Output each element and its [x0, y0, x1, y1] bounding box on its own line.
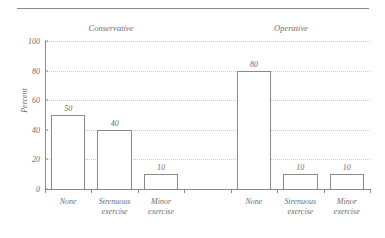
x-axis-tick-mark: [184, 189, 185, 193]
bar: [51, 115, 85, 190]
x-axis-tick-mark: [138, 189, 139, 193]
bar-value-label: 50: [45, 104, 91, 113]
x-axis-tick-mark: [45, 189, 46, 193]
x-axis-category-label: Minor exercise: [318, 197, 377, 217]
y-axis-tick-label: 60: [32, 96, 40, 105]
y-axis-tick-label: 0: [36, 185, 40, 194]
x-axis-tick-mark: [324, 189, 325, 193]
bar-value-label: 10: [138, 163, 184, 172]
y-axis-title: Percent: [20, 71, 29, 131]
x-axis-tick-mark: [231, 189, 232, 193]
y-axis-tick-label: 100: [28, 37, 40, 46]
top-divider-rule: [17, 8, 369, 9]
x-axis-category-label: Minor exercise: [132, 197, 191, 217]
gridline: [45, 71, 370, 72]
x-axis-tick-mark: [370, 189, 371, 193]
bar-value-label: 40: [91, 119, 137, 128]
bar-value-label: 10: [324, 163, 370, 172]
bar-value-label: 80: [231, 60, 277, 69]
bar: [97, 130, 131, 190]
x-axis-tick-mark: [91, 189, 92, 193]
bar: [330, 174, 364, 190]
bar: [237, 71, 271, 190]
bar-value-label: 10: [277, 163, 323, 172]
gridline: [45, 130, 370, 131]
gridline: [45, 41, 370, 42]
y-axis-line: [45, 41, 46, 190]
group-header-conservative: Conservative: [56, 23, 166, 33]
x-axis-line: [45, 189, 371, 190]
bar: [283, 174, 317, 190]
bar: [144, 174, 178, 190]
x-axis-tick-mark: [277, 189, 278, 193]
y-axis-tick-label: 40: [32, 125, 40, 134]
y-axis-tick-label: 20: [32, 155, 40, 164]
bar-chart-figure: Conservative Operative Percent 020406080…: [0, 0, 385, 238]
gridline: [45, 159, 370, 160]
group-header-operative: Operative: [236, 23, 346, 33]
gridline: [45, 100, 370, 101]
y-axis-tick-label: 80: [32, 66, 40, 75]
